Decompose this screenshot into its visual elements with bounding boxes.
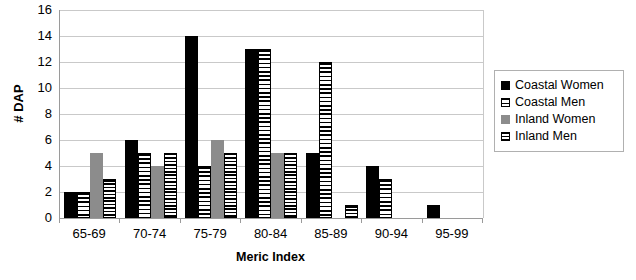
bar-coastal-men-85-89 (319, 62, 332, 218)
legend: Coastal WomenCoastal MenInland WomenInla… (494, 70, 624, 152)
bar-group (241, 10, 301, 218)
bar-group (302, 10, 362, 218)
legend-label: Coastal Men (515, 96, 585, 109)
x-tick-mark (59, 218, 60, 223)
bar-group (362, 10, 422, 218)
bar-coastal-women-75-79 (185, 36, 198, 218)
bar-group (181, 10, 241, 218)
bar-coastal-women-90-94 (366, 166, 379, 218)
y-tick-label: 6 (18, 135, 52, 145)
x-tick-mark (422, 218, 423, 223)
bar-inland-men-75-79 (224, 153, 237, 218)
legend-item-coastal-men[interactable]: Coastal Men (501, 94, 618, 111)
bar-coastal-men-80-84 (258, 49, 271, 218)
plot-area (59, 10, 483, 219)
bar-coastal-women-65-69 (64, 192, 77, 218)
bar-inland-men-80-84 (284, 153, 297, 218)
bar-inland-men-65-69 (103, 179, 116, 218)
bar-group (120, 10, 180, 218)
legend-label: Inland Men (515, 130, 577, 143)
bar-coastal-men-65-69 (77, 192, 90, 218)
bar-coastal-men-70-74 (138, 153, 151, 218)
bar-inland-men-85-89 (345, 205, 358, 218)
legend-label: Inland Women (515, 113, 595, 126)
legend-swatch-coastal-men-icon (501, 98, 510, 107)
legend-item-inland-men[interactable]: Inland Men (501, 128, 618, 145)
bar-coastal-men-90-94 (379, 179, 392, 218)
legend-item-inland-women[interactable]: Inland Women (501, 111, 618, 128)
bar-coastal-women-80-84 (245, 49, 258, 218)
bar-chart: # DAP 1614121086420 65-6970-7475-7980-84… (0, 0, 636, 280)
x-tick-label-95-99: 95-99 (417, 226, 487, 241)
y-tick-label: 4 (18, 161, 52, 171)
bar-inland-women-65-69 (90, 153, 103, 218)
legend-label: Coastal Women (515, 79, 604, 92)
legend-item-coastal-women[interactable]: Coastal Women (501, 77, 618, 94)
y-tick-label: 10 (18, 83, 52, 93)
y-tick-label: 0 (18, 213, 52, 223)
bar-coastal-men-75-79 (198, 166, 211, 218)
bar-inland-women-80-84 (271, 153, 284, 218)
bar-inland-women-75-79 (211, 140, 224, 218)
plot-frame-right (483, 10, 484, 218)
y-tick-label: 16 (18, 5, 52, 15)
y-tick-label: 14 (18, 31, 52, 41)
y-tick-label: 12 (18, 57, 52, 67)
bar-coastal-women-85-89 (306, 153, 319, 218)
y-axis-tick-labels: 1614121086420 (18, 10, 52, 218)
x-tick-mark (240, 218, 241, 223)
x-tick-mark (301, 218, 302, 223)
legend-swatch-inland-women-icon (501, 115, 510, 124)
bar-inland-women-70-74 (151, 166, 164, 218)
x-tick-mark (361, 218, 362, 223)
legend-swatch-inland-men-icon (501, 132, 510, 141)
x-tick-mark (180, 218, 181, 223)
x-axis-title: Meric Index (59, 250, 482, 264)
bar-group (60, 10, 120, 218)
legend-swatch-coastal-women-icon (501, 81, 510, 90)
bar-group (423, 10, 483, 218)
bar-coastal-women-70-74 (125, 140, 138, 218)
bar-coastal-women-95-99 (427, 205, 440, 218)
bar-inland-men-70-74 (164, 153, 177, 218)
x-tick-mark (482, 218, 483, 223)
y-tick-label: 8 (18, 109, 52, 119)
y-tick-label: 2 (18, 187, 52, 197)
x-tick-mark (119, 218, 120, 223)
